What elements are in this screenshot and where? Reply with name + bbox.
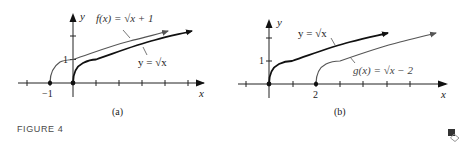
- point-origin-b: [267, 82, 272, 87]
- y-axis-arrow-icon: [70, 13, 77, 22]
- panel-label-b: (b): [334, 106, 346, 118]
- point-origin-a: [71, 81, 76, 86]
- curve-base-a: [73, 31, 192, 83]
- x-axis-arrow-icon: [196, 80, 205, 87]
- figure-canvas: y x −1 1 f(x) = √x + 1 y = √x (a): [0, 0, 469, 145]
- leader-g: [350, 57, 355, 63]
- tick-label-neg1: −1: [42, 88, 53, 99]
- panel-label-a: (a): [112, 106, 123, 118]
- leader-base-a: [143, 47, 147, 55]
- x-axis-label-a: x: [198, 87, 204, 99]
- diamond-marker-icon: [447, 128, 461, 142]
- tick-label-y1-b: 1: [259, 55, 264, 66]
- curve-label-f: f(x) = √x + 1: [96, 12, 154, 25]
- curve-label-base-a: y = √x: [138, 56, 167, 68]
- point-neg1: [48, 81, 52, 85]
- y-axis-arrow-icon: [266, 19, 273, 28]
- x-axis-label-b: x: [440, 88, 446, 100]
- curve-base-b: [269, 33, 388, 84]
- x-axis-arrow-icon: [438, 81, 448, 88]
- curve-label-base-b: y = √x: [298, 27, 327, 39]
- figure-caption: FIGURE 4: [17, 124, 63, 134]
- y-axis-label-a: y: [79, 10, 85, 22]
- leader-f: [123, 30, 130, 38]
- point-2: [314, 82, 318, 86]
- curve-label-g: g(x) = √x − 2: [353, 64, 413, 77]
- panel-a: y x −1 1 f(x) = √x + 1 y = √x (a): [18, 10, 205, 118]
- tick-label-2: 2: [313, 89, 318, 100]
- y-axis-label-b: y: [276, 16, 282, 28]
- curve-g: [316, 33, 436, 84]
- panel-b: y x 2 1 y = √x g(x) = √x − 2 (b): [238, 16, 448, 118]
- tick-label-y1-a: 1: [63, 54, 68, 65]
- leader-base-b: [331, 38, 335, 45]
